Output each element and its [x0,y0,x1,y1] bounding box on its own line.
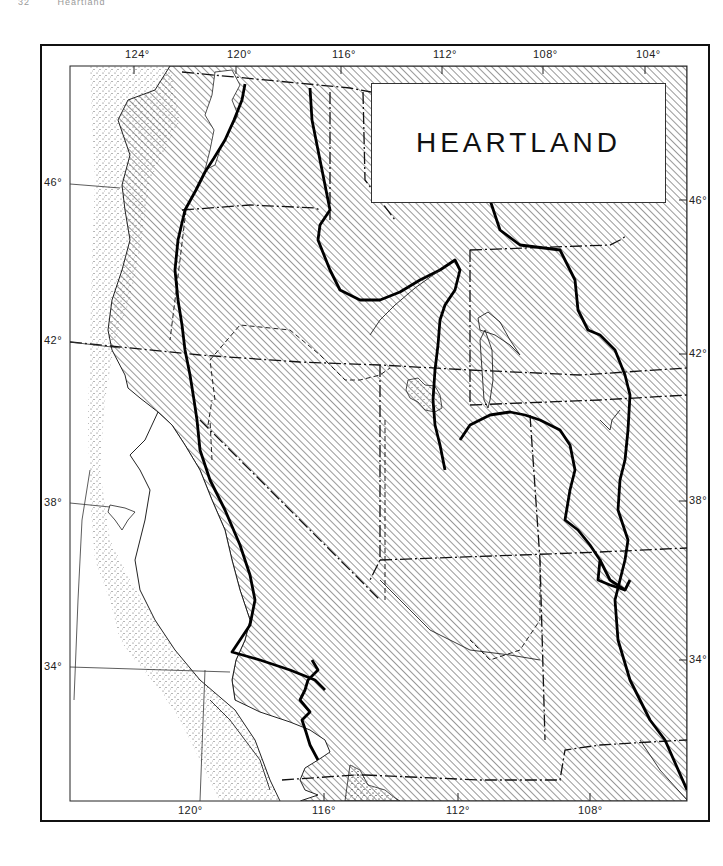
lat-label-left-42: 42° [44,334,62,346]
lon-label-top-112: 112° [433,48,457,60]
lat-label-right-42: 42° [689,347,707,359]
lat-label-right-34: 34° [689,653,707,665]
lon-label-bottom-108: 108° [578,804,603,816]
lon-label-bottom-112: 112° [446,804,470,816]
map-title: HEARTLAND [416,127,621,159]
map-title-box: HEARTLAND [371,83,666,203]
lat-label-right-46: 46° [689,194,707,206]
lat-label-right-38: 38° [689,494,707,506]
lat-label-left-46: 46° [44,176,62,188]
lon-label-top-120: 120° [227,48,252,60]
lon-label-bottom-116: 116° [312,804,336,816]
lon-label-top-104: 104° [636,48,661,60]
lon-label-top-116: 116° [332,48,356,60]
lon-label-top-124: 124° [125,48,150,60]
lat-label-left-34: 34° [44,660,62,672]
lat-label-left-38: 38° [44,496,62,508]
lon-label-top-108: 108° [533,48,558,60]
lon-label-bottom-120: 120° [178,804,203,816]
